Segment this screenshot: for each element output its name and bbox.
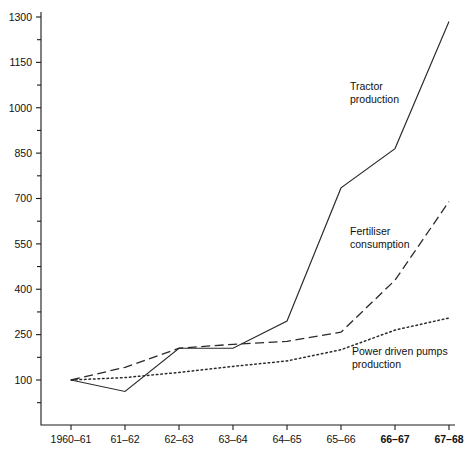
series-annotations: TractorproductionFertiliserconsumptionPo… bbox=[350, 80, 448, 370]
series-annotation-tractor-production: Tractor bbox=[350, 80, 383, 92]
chart-container: 100250400550700850100011501300 1960–6161… bbox=[0, 0, 470, 454]
y-axis-label: 1300 bbox=[9, 11, 33, 23]
series-annotation-tractor-production: production bbox=[350, 93, 399, 105]
x-axis-label: 61–62 bbox=[110, 433, 139, 445]
y-axis-tick-labels: 100250400550700850100011501300 bbox=[9, 11, 33, 386]
line-chart: 100250400550700850100011501300 1960–6161… bbox=[0, 0, 470, 454]
y-axis-label: 100 bbox=[14, 374, 32, 386]
y-axis-label: 850 bbox=[14, 147, 32, 159]
series-annotation-fertiliser-consumption: Fertiliser bbox=[350, 225, 391, 237]
x-axis-label: 66–67 bbox=[380, 433, 409, 445]
y-axis-label: 1150 bbox=[9, 56, 32, 68]
x-axis-label: 62–63 bbox=[164, 433, 193, 445]
x-axis-label: 64–65 bbox=[272, 433, 301, 445]
y-axis-label: 550 bbox=[14, 238, 32, 250]
x-axis-label: 67–68 bbox=[434, 433, 463, 445]
x-axis-tick-labels: 1960–6161–6262–6363–6464–6565–6666–6767–… bbox=[51, 433, 464, 445]
series-annotation-power-driven-pumps-production: Power driven pumps bbox=[352, 345, 448, 357]
y-axis-label: 700 bbox=[14, 192, 32, 204]
y-axis-label: 250 bbox=[14, 328, 32, 340]
series-line-tractor-production bbox=[71, 22, 449, 392]
x-axis-label: 65–66 bbox=[326, 433, 355, 445]
y-axis-label: 1000 bbox=[9, 102, 33, 114]
series-annotation-fertiliser-consumption: consumption bbox=[350, 238, 410, 250]
y-axis-label: 400 bbox=[14, 283, 32, 295]
x-axis-label: 63–64 bbox=[218, 433, 247, 445]
series-annotation-power-driven-pumps-production: production bbox=[352, 358, 401, 370]
x-axis-label: 1960–61 bbox=[51, 433, 92, 445]
chart-series bbox=[71, 22, 449, 392]
